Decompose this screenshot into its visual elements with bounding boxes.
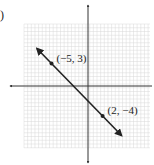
- point-marker: [101, 114, 105, 118]
- point-marker: [50, 62, 54, 66]
- point-label: (−5, 3): [57, 52, 87, 65]
- coordinate-plane: (−5, 3)(2, −4): [0, 0, 154, 165]
- point-label: (2, −4): [108, 104, 138, 117]
